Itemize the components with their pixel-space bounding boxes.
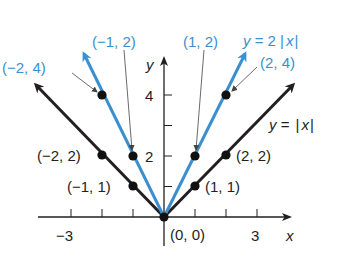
eq-black-rest: = xyxy=(277,116,294,133)
eq-blue-bar-left: | xyxy=(280,32,284,49)
label-point-m2-4: (−2, 4) xyxy=(2,59,46,76)
label-point-1-1: (1, 1) xyxy=(205,178,240,195)
tick-label-y-2: 2 xyxy=(145,148,153,165)
eq-black-x: x xyxy=(301,116,310,133)
label-point-2-4: (2, 4) xyxy=(260,54,295,71)
axis-label-y: y xyxy=(145,56,155,73)
point-m1-1 xyxy=(128,181,137,190)
point-1-1 xyxy=(190,181,199,190)
tick-label-x-3: 3 xyxy=(251,227,259,244)
label-point-1-2: (1, 2) xyxy=(183,33,218,50)
point-m1-2 xyxy=(128,151,137,160)
eq-black-bar-left: | xyxy=(296,116,300,133)
point-2-4 xyxy=(221,90,230,99)
axis-label-x: x xyxy=(285,227,294,244)
label-point-m2-2: (−2, 2) xyxy=(37,147,81,164)
equation-label-2abs-x: y = 2 |x| xyxy=(242,32,298,49)
leader-1-2 xyxy=(196,50,204,150)
eq-blue-rest: = 2 xyxy=(251,32,281,49)
point-2-2 xyxy=(221,150,230,159)
eq-black-bar-right: | xyxy=(310,116,314,133)
y-ticks xyxy=(164,95,172,187)
eq-blue-x: x xyxy=(285,32,294,49)
point-1-2 xyxy=(190,151,199,160)
eq-blue-bar-right: | xyxy=(295,32,299,49)
label-point-0-0: (0, 0) xyxy=(170,226,205,243)
tick-label-y-4: 4 xyxy=(145,87,153,104)
label-point-2-2: (2, 2) xyxy=(236,147,271,164)
label-point-m1-1: (−1, 1) xyxy=(67,178,111,195)
equation-label-abs-x: y = |x| xyxy=(268,116,314,133)
label-point-m1-2: (−1, 2) xyxy=(92,33,136,50)
point-m2-4 xyxy=(97,90,106,99)
tick-label-x-neg3: −3 xyxy=(56,227,73,244)
point-0-0 xyxy=(159,212,168,221)
point-m2-2 xyxy=(97,150,106,159)
absolute-value-graph: −3 3 2 4 x y (−2, 4) (−1, 2) (1, 2) (2, … xyxy=(0,0,342,263)
